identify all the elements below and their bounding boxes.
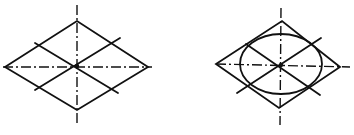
center-point [75, 64, 79, 68]
diagram-canvas [0, 0, 354, 135]
diagonal-line-falling [246, 44, 320, 95]
right-figure-ellipse-inscribed [216, 8, 350, 125]
center-point [279, 63, 283, 67]
left-figure-rhombus-construction [3, 5, 152, 125]
